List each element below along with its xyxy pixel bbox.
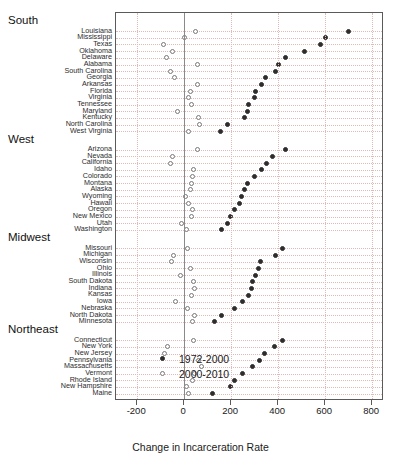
- grid-line-vertical: [325, 13, 326, 399]
- grid-line-horizontal: [116, 262, 382, 263]
- point-2000-2010: [171, 253, 176, 258]
- point-1972-2000: [283, 147, 288, 152]
- grid-line-vertical: [231, 13, 232, 399]
- grid-line-horizontal: [116, 268, 382, 269]
- point-2000-2010: [172, 75, 177, 80]
- x-axis-label: Change in Incarceration Rate: [0, 441, 401, 453]
- point-1972-2000: [302, 49, 307, 54]
- x-axis: -2000200400600800: [115, 400, 383, 430]
- region-header-west: West: [8, 134, 34, 145]
- point-2000-2010: [170, 154, 175, 159]
- point-2000-2010: [168, 161, 173, 166]
- state-label: West Virginia: [70, 127, 112, 134]
- point-2000-2010: [195, 62, 200, 67]
- point-2000-2010: [185, 246, 190, 251]
- grid-line-horizontal: [116, 98, 382, 99]
- point-1972-2000: [246, 102, 251, 107]
- point-1972-2000: [219, 313, 224, 318]
- incarceration-dot-chart: SouthLouisianaMississippiTexasOklahomaDe…: [0, 0, 401, 468]
- point-1972-2000: [252, 174, 257, 179]
- grid-line-horizontal: [116, 203, 382, 204]
- point-1972-2000: [219, 227, 224, 232]
- point-1972-2000: [239, 194, 244, 199]
- point-1972-2000: [237, 201, 242, 206]
- filled-circle-icon: [160, 356, 165, 361]
- grid-line-vertical: [137, 13, 138, 399]
- grid-line-horizontal: [116, 150, 382, 151]
- grid-line-horizontal: [116, 71, 382, 72]
- point-1972-2000: [212, 319, 217, 324]
- x-axis-tick-label: 800: [363, 406, 379, 416]
- x-axis-tick-label: 600: [316, 406, 332, 416]
- point-2000-2010: [178, 273, 183, 278]
- point-2000-2010: [196, 115, 201, 120]
- point-1972-2000: [246, 293, 251, 298]
- grid-line-horizontal: [116, 78, 382, 79]
- grid-line-horizontal: [116, 85, 382, 86]
- point-2000-2010: [190, 207, 195, 212]
- x-axis-tick-label: 400: [269, 406, 285, 416]
- state-label: Maine: [92, 389, 112, 396]
- grid-line-horizontal: [116, 125, 382, 126]
- point-2000-2010: [189, 181, 194, 186]
- point-1972-2000: [256, 266, 261, 271]
- grid-line-horizontal: [116, 65, 382, 66]
- grid-line-horizontal: [116, 315, 382, 316]
- point-2000-2010: [170, 49, 175, 54]
- point-1972-2000: [318, 42, 323, 47]
- grid-line-horizontal: [116, 170, 382, 171]
- grid-line-horizontal: [116, 190, 382, 191]
- grid-line-horizontal: [116, 38, 382, 39]
- point-1972-2000: [240, 299, 245, 304]
- grid-line-horizontal: [116, 196, 382, 197]
- open-circle-icon: [160, 371, 165, 376]
- point-2000-2010: [175, 109, 180, 114]
- point-1972-2000: [250, 279, 255, 284]
- point-2000-2010: [161, 42, 166, 47]
- point-1972-2000: [272, 344, 277, 349]
- point-2000-2010: [189, 214, 194, 219]
- point-2000-2010: [165, 344, 170, 349]
- point-2000-2010: [195, 82, 200, 87]
- grid-line-horizontal: [116, 210, 382, 211]
- point-2000-2010: [191, 338, 196, 343]
- point-1972-2000: [259, 82, 264, 87]
- grid-line-horizontal: [116, 322, 382, 323]
- grid-line-horizontal: [116, 340, 382, 341]
- point-1972-2000: [258, 259, 263, 264]
- grid-line-horizontal: [116, 347, 382, 348]
- grid-line-horizontal: [116, 230, 382, 231]
- x-axis-tick-label: 200: [222, 406, 238, 416]
- point-1972-2000: [245, 181, 250, 186]
- point-1972-2000: [245, 109, 250, 114]
- x-axis-tick-label: -200: [127, 406, 146, 416]
- point-2000-2010: [190, 174, 195, 179]
- point-1972-2000: [242, 187, 247, 192]
- point-1972-2000: [280, 246, 285, 251]
- point-2000-2010: [186, 391, 191, 396]
- grid-line-horizontal: [116, 156, 382, 157]
- point-1972-2000: [210, 391, 215, 396]
- plot-panel: [115, 12, 383, 400]
- grid-line-vertical: [278, 13, 279, 399]
- region-header-northeast: Northeast: [8, 324, 58, 335]
- legend-item: 2000-2010: [155, 367, 263, 381]
- grid-line-horizontal: [116, 44, 382, 45]
- region-header-south: South: [8, 15, 38, 26]
- grid-line-horizontal: [116, 176, 382, 177]
- point-1972-2000: [264, 161, 269, 166]
- point-1972-2000: [249, 286, 254, 291]
- point-1972-2000: [232, 207, 237, 212]
- point-1972-2000: [232, 306, 237, 311]
- grid-line-horizontal: [116, 308, 382, 309]
- point-2000-2010: [190, 319, 195, 324]
- grid-line-horizontal: [116, 163, 382, 164]
- grid-line-horizontal: [116, 31, 382, 32]
- grid-line-vertical: [372, 13, 373, 399]
- point-2000-2010: [189, 293, 194, 298]
- point-2000-2010: [164, 55, 169, 60]
- grid-line-horizontal: [116, 248, 382, 249]
- point-2000-2010: [192, 313, 197, 318]
- grid-line-horizontal: [116, 223, 382, 224]
- point-1972-2000: [225, 122, 230, 127]
